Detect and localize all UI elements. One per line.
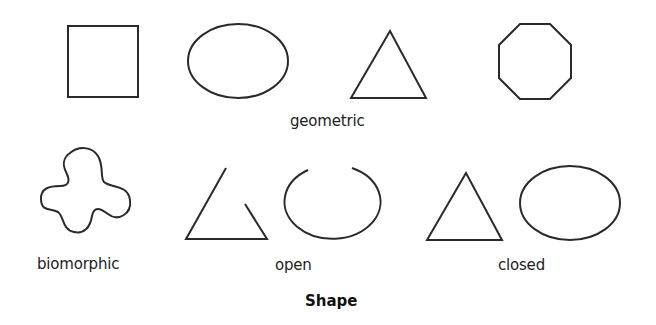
shapes-canvas [0, 0, 656, 325]
shape-diagram: geometric biomorphic open closed Shape [0, 0, 656, 325]
geometric-label: geometric [290, 112, 364, 130]
closed-label: closed [498, 256, 545, 274]
diagram-title: Shape [305, 292, 358, 310]
triangle-shape [351, 31, 426, 98]
open-label: open [275, 256, 312, 274]
biomorphic-label: biomorphic [37, 255, 119, 273]
closed-ellipse-shape [520, 166, 620, 240]
octagon-shape [499, 24, 571, 99]
biomorphic-shape [41, 148, 130, 232]
open-triangle-shape [186, 168, 267, 239]
closed-triangle-shape [427, 173, 502, 240]
square-shape [68, 26, 138, 97]
open-ellipse-shape [285, 168, 381, 239]
ellipse-shape [188, 24, 288, 98]
